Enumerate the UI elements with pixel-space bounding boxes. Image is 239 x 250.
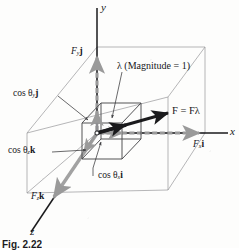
lambda-magnitude-label: λ (Magnitude = 1)	[117, 61, 190, 71]
cos-theta-z-text: cos θ	[8, 145, 28, 155]
cos-theta-y-leader	[58, 96, 88, 120]
force-vector-label: F = Fλ	[172, 106, 200, 117]
z-axis-label: z	[30, 226, 34, 237]
cos-theta-x-unit: i	[120, 170, 123, 180]
x-axis-label: x	[230, 126, 235, 137]
cos-theta-z-unit: k	[30, 145, 35, 155]
fx-component-label: Fxi	[193, 140, 204, 150]
coordinate-axes	[31, 8, 228, 232]
fx-unit-vector: i	[201, 139, 204, 149]
fy-component-label: Fyj	[71, 47, 83, 57]
cos-theta-x-label: cos θxi	[98, 171, 123, 181]
origin-point	[95, 131, 99, 135]
lambda-leader	[112, 72, 122, 118]
y-axis-label: y	[101, 2, 106, 13]
figure-caption: Fig. 2.22	[2, 239, 42, 250]
cos-theta-y-text: cos θ	[13, 88, 33, 98]
cos-theta-y-unit: j	[35, 88, 38, 98]
cos-theta-x-text: cos θ	[98, 170, 118, 180]
cos-theta-y-label: cos θyj	[13, 89, 38, 99]
fz-component-label: Fzk	[31, 192, 44, 202]
fy-unit-vector: j	[79, 46, 82, 56]
fz-unit-vector: k	[39, 191, 44, 201]
cos-theta-z-leader	[52, 150, 86, 152]
cos-theta-z-label: cos θzk	[8, 146, 35, 156]
